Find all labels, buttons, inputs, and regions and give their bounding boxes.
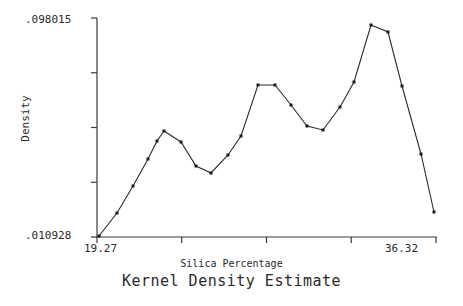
data-point-markers	[98, 24, 436, 238]
y-axis-ticks	[91, 18, 97, 237]
data-point	[339, 106, 342, 109]
data-point	[306, 125, 309, 128]
data-point	[240, 135, 243, 138]
data-point	[274, 84, 277, 87]
data-point	[98, 235, 101, 238]
data-point	[290, 104, 293, 107]
data-point	[227, 154, 230, 157]
data-point	[156, 140, 159, 143]
data-point	[163, 130, 166, 133]
axis-lines	[97, 18, 437, 237]
x-axis-min-label: 19.27	[84, 242, 117, 255]
y-axis-max-label: .098015	[25, 13, 71, 26]
data-point	[210, 172, 213, 175]
y-axis-min-label: .010928	[25, 229, 71, 242]
data-point	[147, 158, 150, 161]
data-point	[132, 185, 135, 188]
data-point	[116, 212, 119, 215]
data-point	[195, 165, 198, 168]
chart-title: Kernel Density Estimate	[0, 272, 463, 290]
density-curve	[99, 25, 434, 236]
data-point	[387, 31, 390, 34]
x-axis-title: Silica Percentage	[0, 258, 463, 269]
data-point	[370, 24, 373, 27]
data-point	[180, 141, 183, 144]
x-axis-max-label: 36.32	[385, 242, 418, 255]
data-point	[322, 129, 325, 132]
data-point	[433, 211, 436, 214]
data-point	[420, 153, 423, 156]
data-point	[401, 85, 404, 88]
y-axis-title: Density	[19, 84, 32, 154]
data-point	[353, 81, 356, 84]
data-point	[257, 84, 260, 87]
